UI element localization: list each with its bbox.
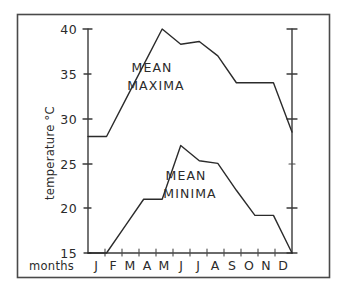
month-label-feb: F (109, 258, 116, 273)
annotation-mean-maxima: MEAN MAXIMA (127, 60, 185, 93)
y-tick-label-25: 25 (60, 157, 77, 172)
month-label-mar: M (125, 258, 136, 273)
y-tick-label-20: 20 (60, 201, 77, 216)
chart-canvas: 40 35 30 25 20 15 temperature °C months … (0, 0, 346, 292)
month-label-nov: N (261, 258, 270, 273)
figure-border (18, 15, 330, 278)
annotation-mean-minima: MEAN MINIMA (163, 168, 216, 201)
y-tick-label-40: 40 (60, 22, 77, 37)
month-label-jun: J (178, 258, 183, 273)
month-label-aug: A (211, 258, 220, 273)
annotation-mean-maxima-line2: MAXIMA (127, 78, 185, 93)
y-tick-label-35: 35 (60, 67, 77, 82)
month-label-may: M (159, 258, 170, 273)
climate-chart-figure: 40 35 30 25 20 15 temperature °C months … (0, 0, 346, 292)
month-label-oct: O (244, 258, 254, 273)
annotation-mean-minima-line1: MEAN (166, 168, 207, 183)
annotation-mean-maxima-line1: MEAN (132, 60, 173, 75)
month-label-jul: J (195, 258, 200, 273)
month-label-dec: D (278, 258, 288, 273)
annotation-mean-minima-line2: MINIMA (163, 186, 216, 201)
y-axis-title: temperature °C (43, 106, 57, 200)
month-label-apr: A (143, 258, 152, 273)
series-line-mean-maxima (88, 29, 292, 137)
x-axis-title: months (29, 259, 74, 273)
month-tick-labels: J F M A M J J A S O N D (93, 258, 288, 273)
month-label-jan: J (93, 258, 98, 273)
y-tick-label-30: 30 (60, 112, 77, 127)
month-label-sep: S (228, 258, 236, 273)
